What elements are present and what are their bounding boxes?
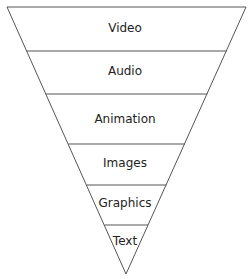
layer-animation: Animation: [0, 112, 250, 126]
layer-audio: Audio: [0, 64, 250, 78]
layer-text: Text: [0, 234, 250, 248]
layer-graphics: Graphics: [0, 196, 250, 210]
layer-images: Images: [0, 156, 250, 170]
layer-video: Video: [0, 21, 250, 35]
